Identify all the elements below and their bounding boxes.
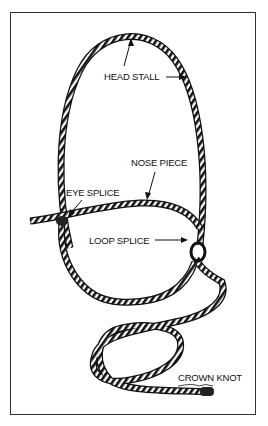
arrowhead-icon: [145, 192, 151, 200]
label-crown-knot: CROWN KNOT: [178, 372, 242, 386]
nose-piece-rope: [30, 203, 200, 228]
label-loop-splice: LOOP SPLICE: [89, 235, 188, 246]
crown-knot-label: CROWN KNOT: [178, 372, 242, 383]
head-stall-label: HEAD STALL: [104, 71, 159, 82]
crown-knot-bracket: [178, 385, 213, 387]
nose-piece-label: NOSE PIECE: [131, 157, 187, 168]
arrowhead-icon: [181, 237, 188, 243]
label-nose-piece: NOSE PIECE: [131, 157, 187, 200]
eye-splice-knot: [56, 216, 68, 226]
halter-diagram: HEAD STALL NOSE PIECE EYE SPLICE LOOP SP…: [0, 0, 268, 426]
head-stall-rope: [61, 37, 203, 248]
eye-splice-label: EYE SPLICE: [66, 187, 119, 198]
loop-splice-label: LOOP SPLICE: [89, 235, 149, 246]
crown-knot: [200, 387, 214, 396]
